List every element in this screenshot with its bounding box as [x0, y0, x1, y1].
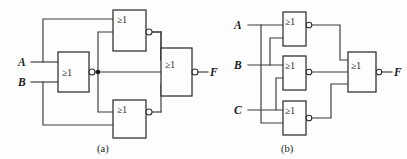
wire-b-c-bus-up: [276, 78, 283, 110]
gate-a-g2-label: ≥1: [117, 15, 127, 25]
gate-b-g2: ≥1: [283, 56, 312, 90]
wire-b-bottom-to-output: [309, 84, 348, 118]
gate-a-g1-label: ≥1: [62, 68, 72, 78]
gate-b-g4-label: ≥1: [351, 61, 361, 71]
wire-b-a-bus: [261, 25, 283, 123]
gate-b-g3-label: ≥1: [285, 106, 295, 116]
gate-a-g2-output-bubble: [146, 29, 152, 35]
gate-a-g3-label: ≥1: [117, 105, 127, 115]
gate-a-g4-box: [161, 48, 192, 96]
wire-b-top-to-output: [309, 25, 348, 60]
caption-b: (b): [281, 143, 294, 155]
gate-a-g1: ≥1: [58, 52, 95, 92]
gate-a-g3-output-bubble: [146, 109, 152, 115]
gate-a-g2: ≥1: [113, 10, 152, 51]
wire-b-b-bus-up: [270, 38, 283, 65]
gate-b-g4: ≥1: [348, 52, 382, 92]
wire-a-junction-to-bottom: [98, 72, 113, 112]
gate-a-g4-output-bubble: [192, 69, 198, 75]
port-label-b-input-c: C: [234, 104, 242, 116]
gate-b-g4-box: [348, 52, 376, 92]
gate-b-g4-output-bubble: [376, 69, 382, 75]
wire-a-junction-to-top: [98, 32, 113, 72]
port-label-a-output-f: F: [209, 66, 218, 78]
gate-b-g2-output-bubble: [306, 69, 312, 75]
port-label-b-output-f: F: [393, 66, 402, 78]
gate-a-g1-output-bubble: [89, 69, 95, 75]
gate-a-g3: ≥1: [113, 100, 152, 138]
gate-b-g1-output-bubble: [306, 22, 312, 28]
junction-dot-a: [96, 70, 101, 75]
logic-circuit-figure: ≥1 ≥1 ≥1 ≥1: [0, 0, 407, 159]
port-label-a-input-a: A: [17, 56, 26, 68]
wire-a-top-to-output: [146, 32, 161, 58]
gate-b-g1-label: ≥1: [285, 17, 295, 27]
caption-a: (a): [97, 143, 109, 155]
gate-b-g3-output-bubble: [306, 115, 312, 121]
gate-b-g3: ≥1: [283, 101, 312, 135]
gate-b-g1: ≥1: [283, 12, 312, 46]
port-label-b-input-b: B: [233, 59, 242, 71]
diagram-a: ≥1 ≥1 ≥1 ≥1: [17, 10, 218, 155]
circuit-canvas: ≥1 ≥1 ≥1 ≥1: [0, 0, 407, 159]
port-label-a-input-b: B: [17, 76, 26, 88]
gate-b-g2-label: ≥1: [285, 61, 295, 71]
diagram-b: ≥1 ≥1 ≥1 ≥1 A B: [233, 12, 402, 155]
gate-a-g4-label: ≥1: [165, 60, 175, 70]
port-label-b-input-a: A: [233, 19, 242, 31]
gate-a-g4: ≥1: [161, 48, 198, 96]
